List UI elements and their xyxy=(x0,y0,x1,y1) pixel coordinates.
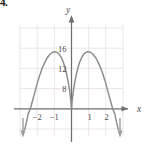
xtick-label-neg1: −1 xyxy=(50,112,59,122)
graph-svg: 16 12 8 −2 −1 1 2 y x xyxy=(0,0,147,147)
x-axis-label: x xyxy=(136,104,142,114)
problem-number-label: 4. xyxy=(0,0,7,8)
ytick-label-16: 16 xyxy=(58,44,67,54)
y-axis-arrowhead xyxy=(69,15,75,23)
y-axis-label: y xyxy=(65,5,71,15)
ytick-label-8: 8 xyxy=(62,84,66,94)
xtick-label-2: 2 xyxy=(104,112,108,122)
figure-container: 4. xyxy=(0,0,147,147)
xtick-label-1: 1 xyxy=(87,112,91,122)
ytick-label-12: 12 xyxy=(58,64,67,74)
x-axis-arrowhead xyxy=(122,106,129,111)
xtick-label-neg2: −2 xyxy=(33,112,42,122)
